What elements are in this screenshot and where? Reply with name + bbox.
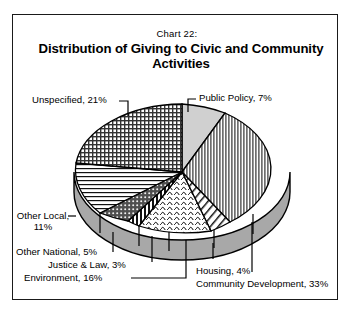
- label-housing: Housing, 4%: [196, 265, 250, 276]
- slice-unspecified: [76, 104, 182, 172]
- chart-figure: Chart 22: Distribution of Giving to Civi…: [0, 0, 354, 321]
- label-justice-law: Justice & Law, 3%: [48, 259, 126, 270]
- label-public-policy: Public Policy, 7%: [199, 92, 272, 103]
- label-other-local-line1: Other Local,: [16, 210, 70, 221]
- label-other-national: Other National, 5%: [16, 246, 97, 257]
- label-environment: Environment, 16%: [24, 272, 102, 283]
- label-unspecified: Unspecified, 21%: [32, 94, 107, 105]
- pie-slices: [75, 104, 271, 233]
- label-community-development: Community Development, 33%: [196, 278, 328, 289]
- label-other-local-line2: 11%: [16, 221, 70, 232]
